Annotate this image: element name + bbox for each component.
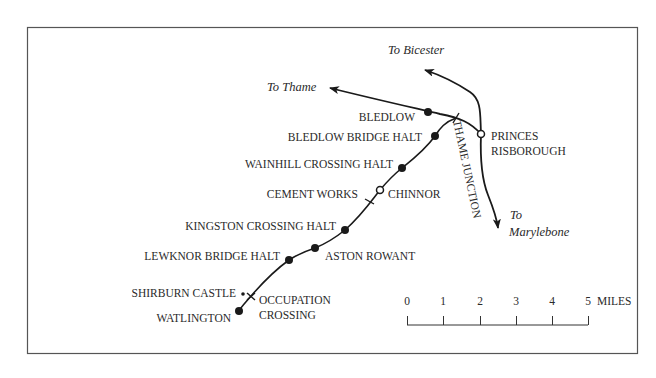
- watlington-branch: [239, 118, 456, 311]
- label-lewknor-bridge-halt: LEWKNOR BRIDGE HALT: [144, 250, 280, 262]
- label-to-thame: To Thame: [267, 80, 317, 94]
- station-dot-bledlow: [424, 108, 432, 116]
- scale-bar: 0 1 2 3 4 5 MILES: [404, 295, 631, 325]
- scale-tick-3: 3: [513, 295, 519, 307]
- label-princes: PRINCES: [491, 130, 538, 142]
- point-shirburn-castle: [241, 292, 245, 296]
- station-dot-lewknor: [285, 256, 293, 264]
- label-occupation: OCCUPATION: [259, 294, 331, 306]
- scale-tick-5: 5: [585, 295, 591, 307]
- label-bledlow: BLEDLOW: [359, 111, 415, 123]
- label-crossing: CROSSING: [259, 309, 316, 321]
- route-map: To Bicester To Thame To Marylebone BLEDL…: [0, 0, 656, 378]
- label-aston-rowant: ASTON ROWANT: [325, 250, 415, 262]
- scale-tick-1: 1: [440, 295, 446, 307]
- label-to-bicester: To Bicester: [388, 43, 444, 57]
- scale-tick-4: 4: [549, 295, 555, 307]
- label-bledlow-bridge-halt: BLEDLOW BRIDGE HALT: [288, 131, 422, 143]
- label-risborough: RISBOROUGH: [491, 145, 566, 157]
- station-open-chinnor: [377, 187, 384, 194]
- station-dot-watlington: [235, 307, 243, 315]
- label-cement-works: CEMENT WORKS: [267, 188, 358, 200]
- label-kingston-crossing-halt: KINGSTON CROSSING HALT: [185, 220, 336, 232]
- scale-tick-0: 0: [404, 295, 410, 307]
- station-dot-bledlow-bridge: [431, 132, 439, 140]
- label-shirburn-castle: SHIRBURN CASTLE: [132, 287, 236, 299]
- label-to-marylebone-1: To: [510, 208, 522, 222]
- station-dot-wainhill: [398, 164, 406, 172]
- station-dot-aston-rowant: [311, 244, 319, 252]
- station-open-princes-risborough: [478, 131, 485, 138]
- label-watlington: WATLINGTON: [156, 312, 231, 324]
- scale-unit: MILES: [597, 295, 632, 307]
- scale-tick-2: 2: [477, 295, 483, 307]
- label-to-marylebone-2: Marylebone: [508, 225, 570, 239]
- label-chinnor: CHINNOR: [388, 188, 441, 200]
- label-wainhill-crossing-halt: WAINHILL CROSSING HALT: [245, 158, 393, 170]
- station-dot-kingston: [341, 226, 349, 234]
